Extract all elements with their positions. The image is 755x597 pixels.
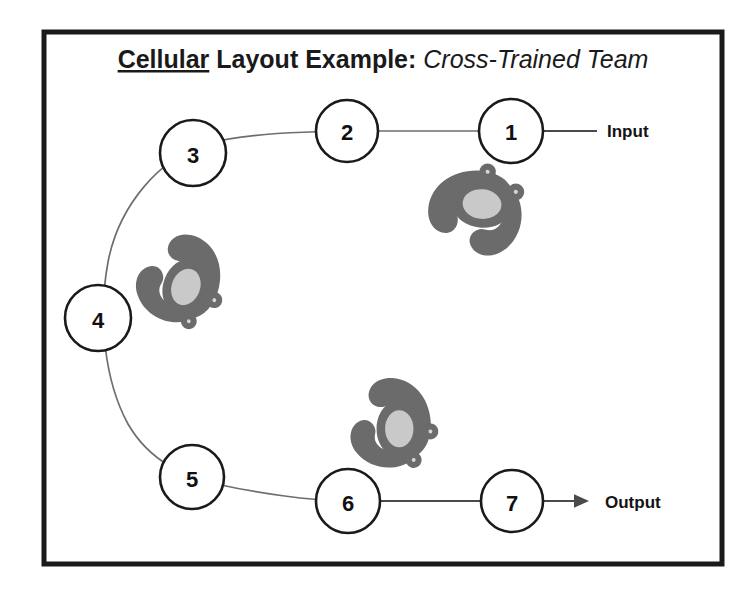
station-label: 4 bbox=[92, 308, 105, 333]
title-part-layout-example: Layout Example: bbox=[209, 45, 423, 73]
station-node-7[interactable]: 7 bbox=[481, 470, 543, 532]
station-label: 6 bbox=[342, 491, 354, 516]
station-node-6[interactable]: 6 bbox=[316, 469, 380, 533]
title-part-cellular: Cellular bbox=[118, 45, 210, 73]
station-node-4[interactable]: 4 bbox=[65, 285, 131, 351]
input-label: Input bbox=[607, 122, 649, 141]
output-label: Output bbox=[605, 493, 661, 512]
station-node-2[interactable]: 2 bbox=[316, 100, 378, 162]
station-node-1[interactable]: 1 bbox=[479, 99, 543, 163]
station-label: 1 bbox=[505, 120, 517, 145]
figure-title: Cellular Layout Example: Cross-Trained T… bbox=[118, 45, 649, 73]
title-part-cross-trained-team: Cross-Trained Team bbox=[423, 45, 648, 73]
station-node-5[interactable]: 5 bbox=[160, 445, 224, 509]
cellular-layout-diagram: Cellular Layout Example: Cross-Trained T… bbox=[0, 0, 755, 597]
station-node-3[interactable]: 3 bbox=[160, 120, 226, 186]
station-label: 7 bbox=[506, 491, 518, 516]
station-label: 3 bbox=[187, 143, 199, 168]
station-label: 5 bbox=[186, 467, 198, 492]
station-label: 2 bbox=[341, 120, 353, 145]
